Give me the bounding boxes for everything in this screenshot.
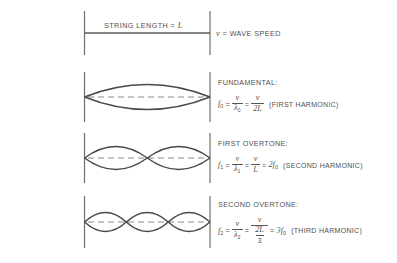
wave-svg-second-overtone xyxy=(78,194,218,250)
eq-equals-3: = xyxy=(270,226,274,235)
standing-wave-diagram: STRING LENGTH = L v = WAVE SPEED FUNDAME… xyxy=(0,0,397,263)
section-title-first-overtone: FIRST OVERTONE: xyxy=(218,139,397,148)
wave-speed-text: = WAVE SPEED xyxy=(223,29,281,38)
equation-second-overtone: f2 = v λ2 = v 2L 3 = 3f0 xyxy=(218,216,397,246)
fraction-denominator: λ0 xyxy=(232,103,243,114)
eq-equals-2: = xyxy=(245,226,249,235)
eq-fraction-1: v λ0 xyxy=(232,94,243,114)
row-first-overtone: FIRST OVERTONE: f1 = v λ1 = v L = 2f0 (S… xyxy=(0,131,397,185)
row-second-overtone: SECOND OVERTONE: f2 = v λ2 = v 2L 3 xyxy=(0,194,397,250)
equation-fundamental: f0 = v λ0 = v 2L (FIRST HARMONIC) xyxy=(218,94,397,114)
header-string-svg xyxy=(78,8,218,58)
wave-svg-fundamental xyxy=(78,70,218,124)
eq-rhs: 2f0 xyxy=(269,160,278,170)
fraction-denominator: λ1 xyxy=(232,164,243,175)
wave-graphic-first-overtone xyxy=(78,131,218,185)
wave-speed-label: v = WAVE SPEED xyxy=(216,29,281,38)
eq-fraction-1: v λ1 xyxy=(232,155,243,175)
section-title-fundamental: FUNDAMENTAL: xyxy=(218,78,397,87)
eq-equals-1: = xyxy=(225,161,229,170)
wave-crest-curve xyxy=(85,85,211,98)
label-block-fundamental: FUNDAMENTAL: f0 = v λ0 = v 2L (FIRST HAR… xyxy=(218,70,397,114)
fraction-denominator: L xyxy=(251,164,260,174)
eq-lhs: f0 xyxy=(218,99,223,109)
header-string-graphic xyxy=(78,8,218,58)
eq-lhs: f2 xyxy=(218,226,223,236)
fraction-numerator: v xyxy=(233,94,241,103)
wave-speed-symbol: v xyxy=(216,29,220,38)
wave-graphic-second-overtone xyxy=(78,194,218,250)
inner-denominator: 3 xyxy=(256,235,264,245)
wave-svg-first-overtone xyxy=(78,131,218,185)
eq-equals-2: = xyxy=(245,161,249,170)
fraction-numerator: v xyxy=(252,155,260,164)
wave-graphic-fundamental xyxy=(78,70,218,124)
row-fundamental: FUNDAMENTAL: f0 = v λ0 = v 2L (FIRST HAR… xyxy=(0,70,397,124)
fraction-numerator: v xyxy=(254,94,262,103)
wave-trough-curve xyxy=(85,97,211,110)
eq-fraction-2: v 2L xyxy=(251,94,264,113)
string-length-symbol: L xyxy=(178,21,183,30)
fraction-denominator: λ2 xyxy=(232,229,243,240)
label-block-second-overtone: SECOND OVERTONE: f2 = v λ2 = v 2L 3 xyxy=(218,194,397,246)
eq-equals-1: = xyxy=(225,226,229,235)
harmonic-name-fundamental: (FIRST HARMONIC) xyxy=(266,101,339,108)
eq-fraction-1: v λ2 xyxy=(232,220,243,240)
fraction-numerator: v xyxy=(233,220,241,229)
eq-lhs: f1 xyxy=(218,160,223,170)
header-row: STRING LENGTH = L v = WAVE SPEED xyxy=(0,8,397,58)
eq-fraction-2-nested: v 2L 3 xyxy=(251,216,268,246)
eq-fraction-2: v L xyxy=(251,155,260,174)
eq-rhs: 3f0 xyxy=(277,226,286,236)
fraction-denominator: 2L xyxy=(251,103,264,113)
inner-fraction: 2L 3 xyxy=(253,226,266,245)
section-title-second-overtone: SECOND OVERTONE: xyxy=(218,200,397,209)
fraction-numerator: v xyxy=(233,155,241,164)
label-block-first-overtone: FIRST OVERTONE: f1 = v λ1 = v L = 2f0 (S… xyxy=(218,131,397,175)
harmonic-name-first-overtone: (SECOND HARMONIC) xyxy=(280,162,363,169)
eq-equals-3: = xyxy=(262,161,266,170)
string-length-label: STRING LENGTH = L xyxy=(104,21,183,30)
eq-equals-2: = xyxy=(245,100,249,109)
harmonic-name-second-overtone: (THIRD HARMONIC) xyxy=(288,227,362,234)
inner-numerator: 2L xyxy=(253,226,266,235)
fraction-denominator-nested: 2L 3 xyxy=(251,225,268,246)
eq-equals-1: = xyxy=(225,100,229,109)
string-length-text: STRING LENGTH = xyxy=(104,21,175,30)
fraction-numerator: v xyxy=(256,216,264,225)
equation-first-overtone: f1 = v λ1 = v L = 2f0 (SECOND HARMONIC) xyxy=(218,155,397,175)
